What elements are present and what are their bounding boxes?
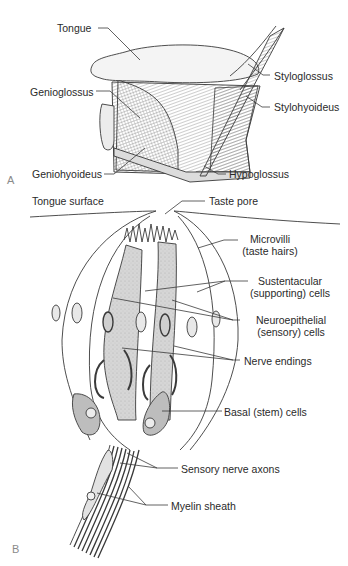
label-sustentacular-line1: Sustentacular (258, 275, 322, 287)
tongue-muscles-illustration (91, 26, 284, 182)
label-myelin-sheath: Myelin sheath (171, 500, 236, 512)
label-microvilli-line2: (taste hairs) (242, 245, 297, 257)
label-basal-cells: Basal (stem) cells (224, 406, 307, 418)
label-microvilli: Microvilli (taste hairs) (240, 233, 300, 257)
label-nerve-endings: Nerve endings (244, 355, 312, 367)
label-tongue-surface: Tongue surface (32, 195, 104, 207)
label-stylohyoideus: Stylohyoideus (274, 101, 339, 113)
label-neuroepithelial: Neuroepithelial (sensory) cells (254, 314, 328, 338)
label-tongue: Tongue (57, 22, 91, 34)
label-microvilli-line1: Microvilli (250, 233, 290, 245)
label-genioglossus: Genioglossus (30, 86, 94, 98)
panel-b-letter: B (12, 543, 19, 555)
label-sensory-axons: Sensory nerve axons (181, 463, 280, 475)
label-sustentacular: Sustentacular (supporting) cells (250, 275, 330, 299)
label-styloglossus: Styloglossus (274, 70, 333, 82)
label-sustentacular-line2: (supporting) cells (250, 287, 330, 299)
label-neuroepithelial-line1: Neuroepithelial (256, 314, 326, 326)
panel-a-letter: A (7, 174, 14, 186)
label-taste-pore: Taste pore (209, 195, 258, 207)
label-geniohyoideus: Geniohyoideus (32, 168, 102, 180)
label-hypoglossus: Hypoglossus (229, 168, 289, 180)
label-neuroepithelial-line2: (sensory) cells (257, 326, 325, 338)
